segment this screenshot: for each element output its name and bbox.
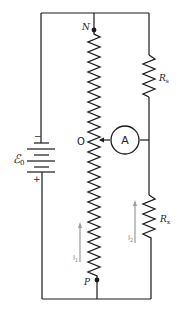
ammeter-label: A — [121, 134, 129, 147]
node-p-label: P — [83, 277, 91, 287]
slide-wire-resistor — [88, 30, 100, 280]
battery-plus-label: + — [33, 174, 41, 184]
node-o-label: O — [77, 136, 85, 147]
resistor-rx — [143, 195, 155, 240]
current-arrow-i1 — [78, 222, 82, 262]
battery-minus-label: − — [34, 131, 42, 141]
rx-label: Rx — [159, 214, 171, 225]
current-i2-label: I2 — [128, 234, 133, 243]
current-arrow-i2 — [133, 200, 137, 243]
node-n-dot — [92, 28, 97, 33]
ammeter: A — [111, 126, 139, 154]
current-i1-label: I1 — [73, 254, 78, 263]
slider-arrow-icon — [99, 138, 104, 143]
rs-label: Rs — [158, 73, 169, 84]
emf-label: ℰ0 — [13, 152, 24, 167]
node-p-dot — [95, 278, 100, 283]
node-n-label: N — [81, 22, 91, 32]
battery-symbol — [27, 143, 55, 172]
resistor-rs — [143, 55, 155, 97]
circuit-diagram: − + ℰ0 N P O A Rs Rx I1 I2 — [0, 0, 183, 314]
